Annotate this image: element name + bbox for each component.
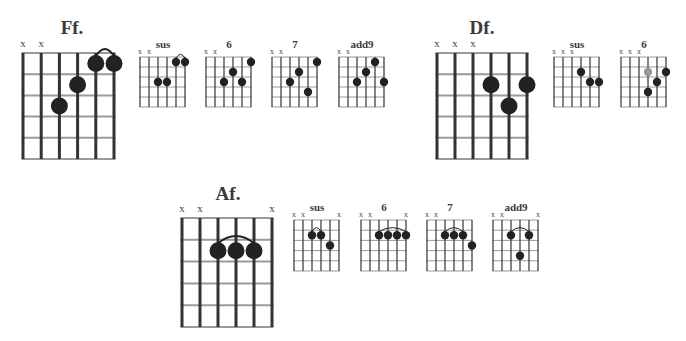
chord-title: 6 [641,38,647,50]
finger-dot-icon [154,78,162,86]
chord-title: 6 [381,201,387,213]
finger-dot-icon [525,231,533,239]
finger-dot-icon [229,68,237,76]
muted-string-icon: x [368,210,372,219]
chord-title: add9 [504,201,528,213]
muted-string-icon: x [500,210,504,219]
chord-diagram-ff-sus: susxx [138,38,189,107]
muted-string-icon: x [337,47,341,56]
muted-string-icon: x [637,47,641,56]
finger-dot-icon [644,88,652,96]
finger-dot-icon [87,55,104,72]
finger-dot-icon [380,78,388,86]
finger-dot-icon [662,68,670,76]
finger-dot-icon [163,78,171,86]
finger-dot-icon [228,242,245,259]
finger-dot-icon [459,231,467,239]
chord-diagram-af: Af.xxx [179,183,275,327]
finger-dot-icon [516,252,524,260]
finger-dot-icon [586,78,594,86]
muted-string-icon: x [561,47,565,56]
finger-dot-icon [507,231,515,239]
chord-title: Df. [470,17,495,38]
muted-string-icon: x [204,47,208,56]
finger-dot-icon [371,58,379,66]
finger-dot-icon [595,78,603,86]
chord-title: sus [156,38,171,50]
finger-dot-icon [483,76,500,93]
muted-string-icon: x [337,210,341,219]
finger-dot-icon [246,242,263,259]
finger-dot-icon [286,78,294,86]
muted-string-icon: x [425,210,429,219]
finger-dot-icon [317,231,325,239]
finger-dot-icon [210,242,227,259]
finger-dot-icon [393,231,401,239]
chord-diagram-df-6: 6xxx [619,38,670,107]
muted-string-icon: x [197,202,203,214]
chord-chart: Ff.xxsusxx6xx7xxadd9xxDf.xxxsusxxx6xxxAf… [0,0,686,341]
finger-dot-icon [450,231,458,239]
muted-string-icon: x [38,37,44,49]
muted-string-icon: x [491,210,495,219]
finger-dot-icon [295,68,303,76]
finger-dot-icon [51,98,68,115]
chord-title: Af. [216,183,241,204]
finger-dot-icon [247,58,255,66]
muted-string-icon: x [359,210,363,219]
finger-dot-icon [238,78,246,86]
finger-dot-icon [384,231,392,239]
muted-string-icon: x [452,37,458,49]
muted-string-icon: x [404,210,408,219]
barre-arc-icon [176,54,185,58]
muted-string-icon: x [619,47,623,56]
chord-diagram-df: Df.xxx [434,17,535,159]
optional-finger-dot-icon [644,68,652,76]
chord-diagram-ff-7: 7xx [270,38,321,107]
muted-string-icon: x [213,47,217,56]
finger-dot-icon [441,231,449,239]
chord-title: 7 [447,201,453,213]
finger-dot-icon [577,68,585,76]
finger-dot-icon [69,76,86,93]
muted-string-icon: x [346,47,350,56]
chord-title: sus [310,201,325,213]
chord-diagram-af-7: 7xx [425,201,476,271]
muted-string-icon: x [470,37,476,49]
muted-string-icon: x [20,37,26,49]
muted-string-icon: x [279,47,283,56]
muted-string-icon: x [536,210,540,219]
finger-dot-icon [402,231,410,239]
muted-string-icon: x [434,37,440,49]
muted-string-icon: x [628,47,632,56]
muted-string-icon: x [570,47,574,56]
finger-dot-icon [106,55,123,72]
finger-dot-icon [313,58,321,66]
finger-dot-icon [362,68,370,76]
chord-diagram-df-sus: susxxx [552,38,603,107]
finger-dot-icon [468,241,476,249]
muted-string-icon: x [138,47,142,56]
finger-dot-icon [326,241,334,249]
chord-title: 6 [226,38,232,50]
muted-string-icon: x [292,210,296,219]
chord-title: 7 [292,38,298,50]
muted-string-icon: x [552,47,556,56]
muted-string-icon: x [301,210,305,219]
muted-string-icon: x [147,47,151,56]
chord-diagram-ff: Ff.xx [20,17,122,159]
finger-dot-icon [519,76,536,93]
chord-diagram-ff-add9: add9xx [337,38,388,107]
muted-string-icon: x [179,202,185,214]
chord-diagram-af-6: 6xxx [359,201,410,271]
finger-dot-icon [172,58,180,66]
finger-dot-icon [220,78,228,86]
barre-arc-icon [379,228,406,232]
finger-dot-icon [353,78,361,86]
chord-title: add9 [350,38,374,50]
muted-string-icon: x [269,202,275,214]
chord-diagram-ff-6: 6xx [204,38,255,107]
finger-dot-icon [304,88,312,96]
chord-title: Ff. [61,17,84,38]
chord-diagram-af-add9: add9xxx [491,201,540,271]
